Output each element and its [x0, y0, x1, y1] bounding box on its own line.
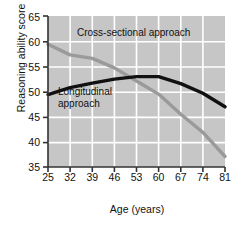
y-axis-tick-labels: 65 60 55 50 45 40 35 — [16, 0, 40, 226]
y-tick-label: 40 — [18, 137, 40, 148]
y-tick-label: 60 — [18, 37, 40, 48]
chart-figure: Reasoning ability score 65 60 55 50 45 4… — [0, 0, 239, 226]
x-tick-label: 39 — [80, 172, 104, 183]
x-axis-label: Age (years) — [48, 203, 226, 215]
y-tick-label: 35 — [18, 162, 40, 173]
x-tick-label: 81 — [213, 172, 237, 183]
x-tick-label: 53 — [125, 172, 149, 183]
longitudinal-annotation-line1: Longitudinal — [58, 86, 112, 98]
x-tick-label: 25 — [36, 172, 60, 183]
x-tick-label: 74 — [191, 172, 215, 183]
longitudinal-annotation-line2: approach — [58, 98, 112, 110]
cross-sectional-annotation: Cross-sectional approach — [77, 27, 190, 39]
y-tick-label: 45 — [18, 112, 40, 123]
x-tick-label: 32 — [58, 172, 82, 183]
y-tick-label: 50 — [18, 87, 40, 98]
x-tick-label: 60 — [147, 172, 171, 183]
longitudinal-annotation: Longitudinal approach — [58, 86, 112, 110]
y-tick-label: 55 — [18, 62, 40, 73]
x-tick-label: 46 — [102, 172, 126, 183]
y-tick-label: 65 — [18, 12, 40, 23]
x-tick-label: 67 — [169, 172, 193, 183]
